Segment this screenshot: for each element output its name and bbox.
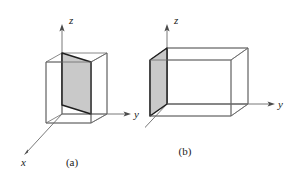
- panel-b-z-axis-label: z: [173, 14, 179, 26]
- figure-canvas: z y x (a): [0, 0, 300, 177]
- panel-a-x-axis-label: x: [20, 156, 26, 168]
- panel-a-caption: (a): [66, 156, 79, 169]
- panel-a-y-axis-label: y: [133, 108, 139, 120]
- panel-b: z y x (b): [145, 0, 300, 177]
- box-top-right-diag: [91, 53, 107, 62]
- x-axis-arrowhead: [24, 149, 31, 155]
- box-bottom-right-diag: [91, 114, 107, 123]
- box-bottom-right-diag: [231, 104, 248, 116]
- panel-a: z y x (a): [0, 0, 150, 177]
- panel-b-caption: (b): [179, 145, 192, 158]
- box-top-right-diag: [231, 48, 248, 60]
- panel-b-y-axis-label: y: [277, 98, 283, 110]
- panel-a-z-axis-label: z: [68, 14, 74, 26]
- x-axis-line: [27, 114, 62, 152]
